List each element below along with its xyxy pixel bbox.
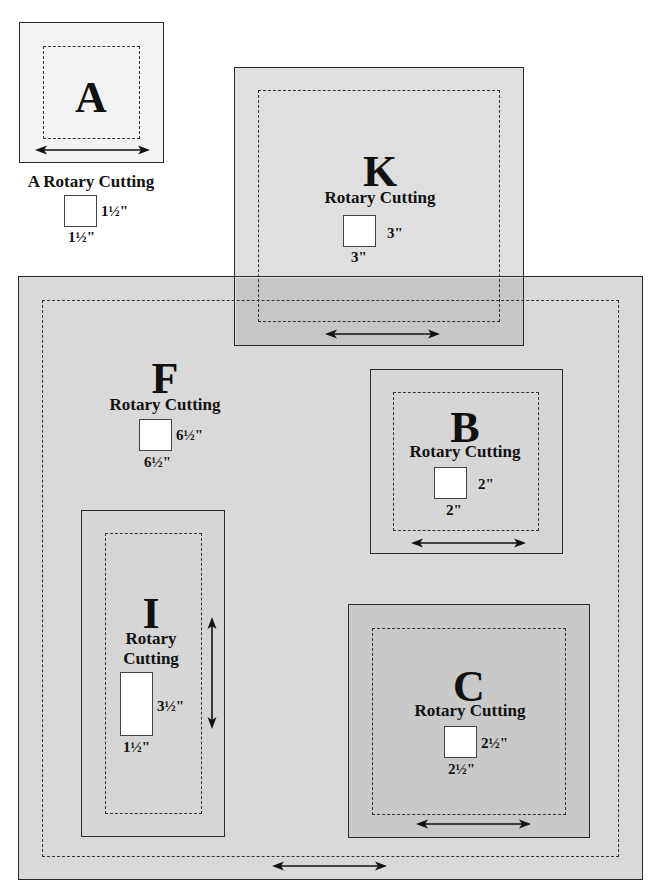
template-i-grain-arrow-icon <box>206 617 218 729</box>
template-f-cut-square <box>139 419 172 451</box>
template-k-width-dim: 3" <box>351 250 367 265</box>
template-k-caption: Rotary Cutting <box>290 189 470 208</box>
template-i-caption-line2: Cutting <box>101 650 201 669</box>
template-a-cut-square <box>64 195 97 227</box>
template-i-caption-line1: Rotary <box>101 630 201 649</box>
template-b-caption: Rotary Cutting <box>375 443 555 462</box>
template-i-cut-rectangle <box>120 672 153 736</box>
template-b-height-dim: 2" <box>478 477 494 492</box>
template-b-cut-square <box>434 467 467 499</box>
template-f-height-dim: 6½" <box>176 428 203 443</box>
template-i-height-dim: 3½" <box>157 699 184 714</box>
template-i-width-dim: 1½" <box>123 740 150 755</box>
template-a-caption: A Rotary Cutting <box>11 173 171 192</box>
template-a-grain-arrow-icon <box>35 144 150 156</box>
template-b-grain-arrow-icon <box>411 537 526 549</box>
template-c-width-dim: 2½" <box>448 762 475 777</box>
template-c-cut-square <box>444 726 477 758</box>
template-c-grain-arrow-icon <box>416 818 531 830</box>
template-c-seam-line <box>372 628 566 815</box>
template-c-caption: Rotary Cutting <box>380 702 560 721</box>
template-a-width-dim: 1½" <box>68 230 95 245</box>
template-b-width-dim: 2" <box>446 503 462 518</box>
template-c-height-dim: 2½" <box>481 736 508 751</box>
template-f-width-dim: 6½" <box>144 455 171 470</box>
template-k-height-dim: 3" <box>387 226 403 241</box>
template-a-height-dim: 1½" <box>101 204 128 219</box>
template-f-grain-arrow-icon <box>272 860 387 872</box>
template-k-cut-square <box>343 215 376 247</box>
template-a-letter: A <box>41 76 141 120</box>
template-k-grain-arrow-icon <box>325 328 440 340</box>
template-f-caption: Rotary Cutting <box>75 396 255 415</box>
